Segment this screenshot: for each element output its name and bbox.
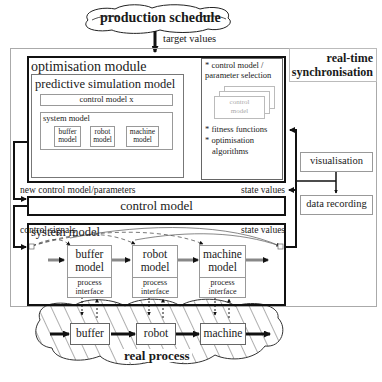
target-values-label: target values [163, 34, 216, 45]
machine-model-line1: machine [199, 249, 246, 261]
data-recording-label: data recording [300, 199, 373, 210]
machine-iface-line1: process [199, 279, 246, 287]
control-model-label: control model [27, 199, 286, 212]
optimisation-module-title: optimisation module [31, 60, 147, 74]
mini-system-model-title: system model [43, 114, 90, 123]
buffer-model-line1: buffer [67, 249, 112, 261]
realtime-sync-label-line2: synchronisation [292, 66, 373, 78]
selection-item1-line1: * control model / [205, 61, 263, 70]
real-robot-label: robot [136, 328, 176, 340]
machine-model-line2: model [199, 262, 246, 274]
production-schedule-label: production schedule [100, 11, 221, 25]
state-values-label-upper: state values [241, 186, 285, 196]
mini-machine-model-label: machine model [127, 128, 158, 145]
visualisation-label: visualisation [300, 156, 373, 167]
predictive-simulation-model-title: predictive simulation model [35, 78, 175, 91]
robot-model-line1: robot [132, 249, 178, 261]
buffer-model-line2: model [67, 262, 112, 274]
system-model-title: system model [31, 226, 100, 239]
buffer-iface-line2: interface [67, 288, 112, 296]
realtime-sync-label-line1: real-time [327, 52, 373, 64]
control-model-card-line1: control [214, 99, 265, 106]
mini-buffer-model-label: buffer model [55, 128, 80, 145]
real-buffer-label: buffer [70, 328, 110, 340]
buffer-iface-line1: process [67, 279, 112, 287]
selection-item1-line2: parameter selection [205, 71, 271, 80]
machine-iface-line2: interface [199, 288, 246, 296]
robot-iface-line1: process [132, 279, 178, 287]
real-process-label: real process [122, 349, 192, 362]
control-model-x-label: control model x [40, 95, 173, 104]
robot-iface-line2: interface [132, 288, 178, 296]
new-control-model-label: new control model/parameters [20, 186, 136, 196]
mini-robot-model-label: robot model [91, 128, 114, 145]
real-machine-label: machine [200, 328, 246, 340]
selection-item3-line2: algorithms [212, 147, 248, 156]
selection-item2: * fitness functions [205, 125, 267, 134]
robot-model-line2: model [132, 262, 178, 274]
control-model-card-line2: model [214, 108, 265, 115]
selection-item3-line1: * optimisation [205, 136, 254, 145]
